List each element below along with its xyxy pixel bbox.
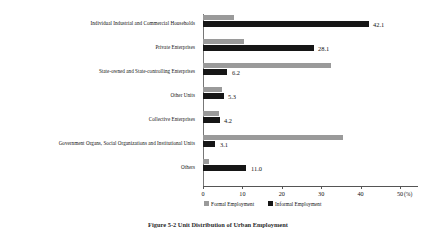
x-axis-tick — [400, 186, 401, 189]
bar-formal — [203, 15, 234, 20]
bar-informal — [203, 141, 215, 146]
category-label: Government Organs, Social Organizations … — [59, 140, 195, 146]
figure-caption: Figure 5-2 Unit Distribution of Urban Em… — [0, 220, 436, 229]
bar-formal — [203, 87, 222, 92]
legend-label: Formal Employment — [211, 201, 254, 207]
x-axis-tick — [361, 186, 362, 189]
category-label: State-owned and State-controlling Enterp… — [99, 68, 195, 74]
x-axis-tick — [321, 186, 322, 189]
category-label: Private Enterprises — [155, 44, 195, 50]
category-label: Individual Industrial and Commercial Hou… — [91, 20, 196, 26]
chart-figure: Individual Industrial and Commercial Hou… — [0, 0, 436, 229]
x-axis-tick — [203, 186, 204, 189]
bar-informal — [203, 165, 246, 170]
chart-legend: Formal Employment Informal Employment — [204, 199, 404, 208]
x-axis-tick-label: 20 — [279, 190, 285, 198]
legend-item-formal-employment: Formal Employment — [204, 201, 254, 207]
bar-informal — [203, 45, 314, 50]
bar-formal — [203, 63, 331, 68]
x-axis-tick-label: 40 — [358, 190, 364, 198]
bar-value-label: 4.2 — [224, 117, 232, 124]
bar-value-label: 28.1 — [318, 45, 329, 52]
x-axis-tick-label: 10 — [239, 190, 245, 198]
bar-value-label: 3.1 — [220, 141, 228, 148]
legend-swatch-icon — [268, 201, 273, 206]
bar-informal — [203, 21, 369, 26]
bar-value-label: 5.3 — [228, 93, 236, 100]
x-axis-tick-label: 50 — [397, 190, 403, 198]
x-axis-tick-label: 30 — [318, 190, 324, 198]
legend-swatch-icon — [204, 201, 209, 206]
x-axis-tick — [242, 186, 243, 189]
bar-formal — [203, 159, 209, 164]
bar-value-label: 42.1 — [373, 21, 384, 28]
category-axis-labels: Individual Industrial and Commercial Hou… — [0, 14, 199, 186]
legend-item-informal-employment: Informal Employment — [268, 201, 321, 207]
bar-informal — [203, 69, 227, 74]
legend-label: Informal Employment — [275, 201, 321, 207]
x-axis-unit-label: (%) — [404, 190, 412, 198]
x-axis-tick-label: 0 — [201, 190, 204, 198]
category-label: Collective Enterprises — [149, 116, 195, 122]
plot-area: 42.1 28.1 6.2 5.3 4.2 3.1 11.0 — [203, 14, 400, 186]
bar-formal — [203, 111, 219, 116]
bar-value-label: 11.0 — [251, 165, 262, 172]
bar-formal — [203, 39, 244, 44]
bar-informal — [203, 117, 220, 122]
x-axis-tick — [282, 186, 283, 189]
value-axis-line — [203, 186, 418, 187]
bar-value-label: 6.2 — [232, 69, 240, 76]
category-label: Others — [181, 164, 195, 170]
category-label: Other Units — [171, 92, 195, 98]
bar-informal — [203, 93, 224, 98]
